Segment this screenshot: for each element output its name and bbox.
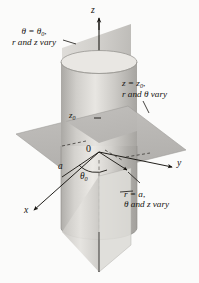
z0-label: z0 (69, 110, 75, 121)
callout-r-cylinder-line2: θ and z vary (124, 199, 169, 209)
radius-a-label: a (58, 161, 63, 172)
callout-r-cylinder-tail: , (143, 189, 145, 199)
callout-z-plane-line1: z = z0, (122, 78, 167, 89)
callout-z-plane-line2: r and θ vary (122, 89, 167, 99)
callout-z-plane-lead: z = z (122, 78, 140, 88)
callout-theta-plane-lead: θ = θ (22, 26, 42, 36)
cylindrical-coordinates-figure: θ = θ0, r and z vary z = z0, r and θ var… (0, 0, 199, 283)
axis-label-z: z (91, 5, 95, 16)
callout-z-plane: z = z0, r and θ vary (122, 78, 167, 100)
leader-theta-plane (63, 40, 76, 44)
callout-r-cylinder: r = a, θ and z vary (124, 189, 169, 210)
axis-label-y: y (177, 158, 181, 169)
callout-theta-plane: θ = θ0, r and z vary (12, 26, 56, 48)
z0-label-sub: 0 (73, 115, 76, 121)
callout-theta-plane-line1: θ = θ0, (12, 26, 56, 37)
callout-r-cylinder-line1: r = a, (124, 189, 169, 199)
axis-label-x: x (24, 205, 28, 216)
callout-theta-plane-line2: r and z vary (12, 37, 56, 47)
callout-theta-plane-tail: , (44, 26, 46, 36)
callout-r-cylinder-lead: r = a (124, 189, 143, 199)
origin-label: 0 (86, 143, 91, 154)
callout-z-plane-tail: , (143, 78, 145, 88)
theta0-label: θ0 (80, 171, 88, 183)
theta0-label-sub: 0 (85, 175, 88, 182)
leader-z-plane (143, 101, 149, 113)
